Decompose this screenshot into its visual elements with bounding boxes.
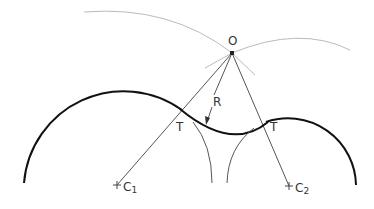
label-c2: C2 [295, 181, 309, 196]
inner-arc-left [193, 122, 212, 183]
label-c1: C1 [123, 180, 137, 195]
construction-short-right [232, 53, 255, 75]
label-c2-letter: C [295, 181, 303, 195]
label-c1-letter: C [123, 180, 131, 194]
line-o-to-c1 [117, 53, 232, 185]
construction-short-left [205, 53, 232, 68]
construction-arc-left [84, 11, 232, 53]
arc-right-center-c2 [266, 118, 356, 185]
label-t-right: T [269, 120, 278, 134]
radius-leader-line [214, 53, 232, 95]
point-o-marker [230, 51, 234, 55]
label-c2-subscript: 2 [303, 186, 309, 196]
label-o: O [228, 34, 237, 48]
inner-arc-right [227, 128, 254, 183]
label-r: R [213, 95, 221, 109]
label-t-left: T [175, 120, 184, 134]
construction-arc-right [232, 38, 350, 53]
tangent-arc-diagram: O R T T C1 C2 [0, 0, 374, 209]
label-c1-subscript: 1 [131, 185, 137, 195]
fillet-arc-radius-r [180, 109, 268, 134]
radius-arrowhead [205, 116, 210, 125]
c2-cross-marker [285, 182, 293, 190]
